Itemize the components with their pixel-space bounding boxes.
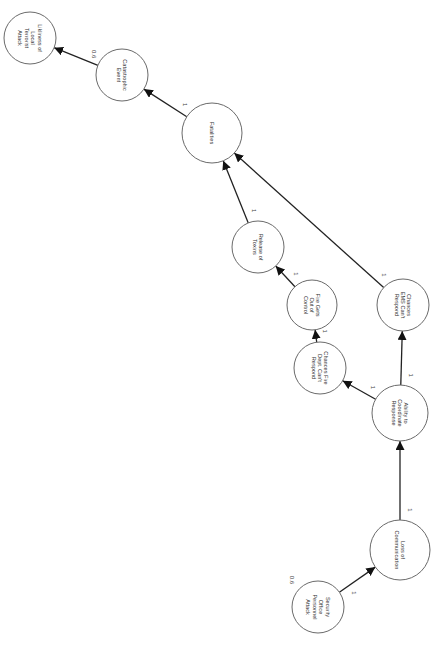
edge-fire_dept-to-fire_control (315, 330, 317, 342)
edge-weight-label: 1 (351, 591, 357, 595)
edge-weight-label: 1 (293, 272, 299, 276)
node-label-line: Chances Fire (323, 351, 329, 384)
node-label-line: Response (391, 400, 397, 425)
edge-weight-label: 0.6 (91, 50, 97, 59)
influence-diagram: Likliness ofLocalTerroristAttackCatastro… (0, 0, 441, 647)
node-label-line: Terrorist (24, 28, 30, 49)
node-label-line: Fire Gets (315, 293, 321, 316)
node-label-line: Chances (406, 294, 412, 316)
edge-weight-label: 1 (381, 273, 387, 277)
node-label-line: Out of (309, 297, 315, 313)
node-label-line: Attack (305, 599, 311, 615)
node-label-line: Respond (394, 294, 400, 316)
node-label: ChancesEMS Can'tRespond (394, 292, 413, 319)
node-label-line: Toxins (252, 239, 258, 255)
node-catastrophic[interactable]: CatastrophicEvent (96, 49, 148, 101)
node-label-line: Fatalities (209, 122, 215, 145)
node-label-line: Loss of (400, 541, 406, 559)
nodes-layer: Likliness ofLocalTerroristAttackCatastro… (4, 12, 430, 633)
node-label-line: Release of (258, 234, 264, 261)
edge-weight-label: 1 (251, 209, 257, 213)
edge-weight-label: 1 (322, 330, 328, 334)
node-label-line: Control (303, 296, 309, 314)
node-label-line: Local (30, 31, 36, 44)
edge-coordinate-to-fire_dept (343, 381, 376, 400)
edge-weight-label: 1 (407, 508, 413, 512)
node-security[interactable]: SecurityOfficePersonnelAttack (292, 581, 344, 633)
node-toxins[interactable]: Release ofToxins (232, 221, 284, 273)
probability-label: 0.6 (289, 576, 295, 585)
edge-coordinate-to-ems (401, 331, 403, 385)
node-label-line: EMS Can't (400, 292, 406, 319)
node-label-line: Attack (17, 30, 23, 46)
edge-weight-label: 1 (370, 386, 376, 390)
node-ems[interactable]: ChancesEMS Can'tRespond (377, 279, 429, 331)
edge-weight-label: 1 (408, 374, 414, 378)
labels-layer: 0.61111111110.6 (91, 50, 414, 595)
node-label-line: Communication (394, 531, 400, 570)
node-label-line: Ability to (403, 402, 409, 423)
node-label-line: Respond (311, 357, 317, 379)
node-label-line: Coordinate (397, 399, 403, 426)
node-label-line: Security (325, 597, 331, 617)
node-label: Ability toCoordinateResponse (391, 399, 410, 426)
node-fatalities[interactable]: Fatalities (182, 103, 242, 163)
node-label-line: Catastrophic (122, 59, 128, 91)
node-coordinate[interactable]: Ability toCoordinateResponse (372, 385, 428, 441)
node-label: Fatalities (209, 122, 215, 145)
node-fire_control[interactable]: Fire GetsOut ofControl (287, 280, 337, 330)
edge-security-to-communication (339, 567, 375, 592)
node-label-line: Personnel (312, 594, 318, 619)
node-likliness[interactable]: Likliness ofLocalTerroristAttack (4, 12, 56, 64)
node-label-line: Event (116, 68, 122, 83)
node-label-line: Likliness of (37, 24, 43, 52)
node-label-line: Dept. Can't (317, 354, 323, 382)
node-label-line: Office (318, 600, 324, 615)
node-communication[interactable]: Loss ofCommunication (370, 520, 430, 580)
edge-fire_control-to-toxins (276, 266, 295, 287)
edge-fatalities-to-catastrophic (144, 89, 187, 117)
edge-weight-label: 1 (182, 103, 188, 107)
node-fire_dept[interactable]: Chances FireDept. Can'tRespond (294, 342, 346, 394)
edge-toxins-to-fatalities (223, 161, 248, 223)
